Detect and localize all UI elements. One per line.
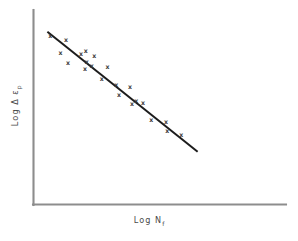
- scatter-marker: x: [114, 81, 118, 88]
- scatter-marker: x: [66, 59, 70, 66]
- scatter-marker: x: [79, 50, 83, 57]
- y-axis-label-symbol: Δ ε: [10, 89, 20, 105]
- scatter-marker: x: [92, 52, 96, 59]
- scatter-marker: x: [83, 65, 87, 72]
- scatter-marker: x: [105, 63, 109, 70]
- chart-canvas: xxxxxxxxxxxxxxxxxxxxxx: [0, 0, 298, 241]
- scatter-marker: x: [84, 47, 88, 54]
- scatter-marker: x: [64, 36, 68, 43]
- scatter-marker: x: [117, 91, 121, 98]
- scatter-marker: x: [179, 131, 183, 138]
- figure-container: xxxxxxxxxxxxxxxxxxxxxx Log Nf Log Δ εp: [0, 0, 298, 241]
- y-axis-label-subscript: p: [15, 85, 22, 89]
- x-axis-label: Log Nf: [0, 215, 298, 227]
- scatter-marker: x: [59, 49, 63, 56]
- scatter-marker: x: [48, 32, 52, 39]
- scatter-marker: x: [165, 127, 169, 134]
- scatter-marker: x: [149, 116, 153, 123]
- scatter-marker: x: [90, 62, 94, 69]
- trend-line: [47, 32, 197, 152]
- x-axis-label-text: Log: [134, 215, 152, 225]
- x-axis-label-subscript: f: [162, 220, 164, 227]
- y-axis-label: Log Δ εp: [10, 56, 22, 156]
- scatter-marker: x: [130, 100, 134, 107]
- scatter-marker: x: [134, 97, 138, 104]
- y-axis-label-text: Log: [10, 108, 20, 126]
- scatter-marker: x: [100, 75, 104, 82]
- scatter-marker: x: [85, 58, 89, 65]
- scatter-marker: x: [128, 83, 132, 90]
- scatter-marker: x: [141, 99, 145, 106]
- scatter-marker: x: [164, 118, 168, 125]
